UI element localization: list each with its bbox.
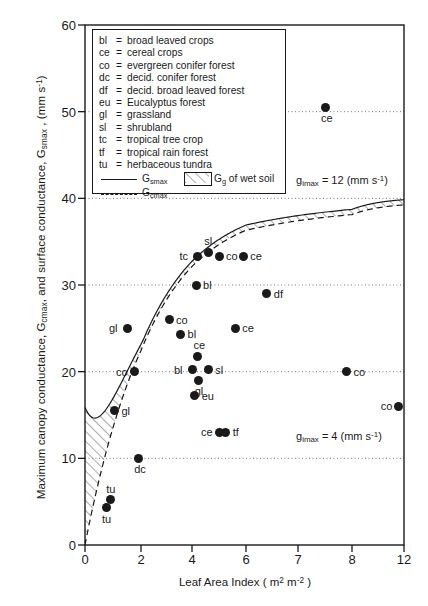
data-point bbox=[102, 503, 111, 512]
data-point bbox=[134, 454, 143, 463]
legend-entry-description: Eucalyptus forest bbox=[127, 97, 205, 109]
legend-entry-equals: = bbox=[116, 134, 127, 146]
legend-entry-equals: = bbox=[116, 47, 127, 59]
legend-entry: bl=broad leaved crops bbox=[99, 35, 285, 47]
legend-entry-equals: = bbox=[116, 147, 127, 159]
legend-entry-description: evergreen conifer forest bbox=[127, 60, 235, 72]
x-tick-label: 4 bbox=[177, 553, 207, 566]
legend-entry-equals: = bbox=[116, 122, 127, 134]
x-tick-label: 6 bbox=[231, 553, 261, 566]
annotation-gimax-4: gimax = 4 (mm s-1) bbox=[296, 430, 382, 444]
x-tick-label: 7 bbox=[283, 553, 313, 566]
legend-entry: eu=Eucalyptus forest bbox=[99, 97, 285, 109]
annotation-gimax-12: gimax = 12 (mm s-1) bbox=[296, 174, 388, 188]
legend-entry-description: shrubland bbox=[127, 122, 172, 134]
legend-entry-code: bl bbox=[99, 35, 116, 47]
legend-entry-code: ce bbox=[99, 47, 116, 59]
legend-curve-gcmax: Gcmax bbox=[99, 187, 285, 201]
legend-entry-code: df bbox=[99, 85, 116, 97]
dashed-line-icon bbox=[101, 194, 137, 195]
data-point-label: tu bbox=[106, 484, 115, 495]
data-point-label: ce bbox=[242, 323, 254, 334]
legend-entry: df=decid. broad leaved forest bbox=[99, 85, 285, 97]
legend-entry: tu=herbaceous tundra bbox=[99, 159, 285, 171]
legend-entry-code: dc bbox=[99, 72, 116, 84]
legend-entry: tf=tropical rain forest bbox=[99, 147, 285, 159]
legend-hatch-label: Gg of wet soil bbox=[214, 173, 274, 187]
data-point-label: tf bbox=[233, 427, 239, 438]
legend-entry-description: broad leaved crops bbox=[127, 35, 214, 47]
data-point-label: tu bbox=[102, 514, 111, 525]
y-tick-label: 0 bbox=[50, 539, 76, 552]
data-point bbox=[193, 352, 202, 361]
legend-entry: dc=decid. conifer forest bbox=[99, 72, 285, 84]
legend-entry: ce=cereal crops bbox=[99, 47, 285, 59]
data-point-label: eu bbox=[202, 391, 214, 402]
data-point bbox=[176, 330, 185, 339]
data-point bbox=[204, 248, 213, 257]
legend-entry-equals: = bbox=[116, 97, 127, 109]
legend-entry-description: decid. broad leaved forest bbox=[127, 85, 244, 97]
data-point-label: co bbox=[176, 315, 188, 326]
data-point-label: tc bbox=[179, 251, 188, 262]
legend-entry-description: tropical rain forest bbox=[127, 147, 208, 159]
legend-entry: gl=grassland bbox=[99, 109, 285, 121]
x-axis-label: Leaf Area Index ( m2 m-2 ) bbox=[85, 576, 405, 588]
y-tick-label: 50 bbox=[50, 106, 76, 119]
data-point-label: ce bbox=[193, 340, 205, 351]
legend-entry-equals: = bbox=[116, 159, 127, 171]
hatch-swatch-icon bbox=[184, 172, 212, 186]
legend-entry-equals: = bbox=[116, 85, 127, 97]
y-tick-label: 40 bbox=[50, 192, 76, 205]
data-point-label: co bbox=[354, 367, 366, 378]
data-point-label: ce bbox=[321, 113, 333, 124]
legend-gcmax-label: Gcmax bbox=[142, 187, 182, 201]
legend-gsmax-label: Gsmax bbox=[142, 173, 182, 187]
data-point-label: co bbox=[381, 401, 393, 412]
legend-entry-description: herbaceous tundra bbox=[127, 159, 212, 171]
data-point bbox=[231, 324, 240, 333]
data-point bbox=[110, 406, 119, 415]
legend-entry-description: cereal crops bbox=[127, 47, 183, 59]
data-point-label: gl bbox=[109, 323, 118, 334]
legend-entry-list: bl=broad leaved cropsce=cereal cropsco=e… bbox=[99, 35, 285, 171]
legend-entry-equals: = bbox=[116, 72, 127, 84]
curve-gsmax bbox=[85, 200, 404, 418]
y-axis-label: Maximum canopy conductance, Gcmax, and s… bbox=[35, 79, 49, 499]
data-point-label: sl bbox=[215, 365, 223, 376]
solid-line-icon bbox=[101, 179, 137, 180]
figure-root: Maximum canopy conductance, Gcmax, and s… bbox=[0, 0, 428, 606]
legend-entry: sl=shrubland bbox=[99, 122, 285, 134]
y-tick-label: 30 bbox=[50, 279, 76, 292]
legend-entry-code: sl bbox=[99, 122, 116, 134]
legend-entry-description: decid. conifer forest bbox=[127, 72, 216, 84]
data-point-label: co bbox=[226, 251, 238, 262]
y-tick-label: 20 bbox=[50, 366, 76, 379]
legend-entry-code: co bbox=[99, 60, 116, 72]
data-point-label: sl bbox=[204, 236, 212, 247]
data-point bbox=[215, 252, 224, 261]
x-tick-label: 2 bbox=[126, 553, 156, 566]
legend-entry-equals: = bbox=[116, 109, 127, 121]
y-tick-label: 10 bbox=[50, 452, 76, 465]
data-point-label: gl bbox=[121, 406, 130, 417]
data-point bbox=[123, 324, 132, 333]
x-tick-label: 8 bbox=[337, 553, 367, 566]
data-point-label: bl bbox=[174, 365, 183, 376]
data-point-label: dc bbox=[134, 464, 146, 475]
legend-entry-code: tc bbox=[99, 134, 116, 146]
data-point bbox=[130, 367, 139, 376]
legend-entry-code: eu bbox=[99, 97, 116, 109]
legend-entry-code: gl bbox=[99, 109, 116, 121]
legend-entry-equals: = bbox=[116, 35, 127, 47]
data-point bbox=[188, 365, 197, 374]
legend-entry-code: tf bbox=[99, 147, 116, 159]
data-point bbox=[321, 103, 330, 112]
data-point bbox=[193, 252, 202, 261]
legend-entry-description: tropical tree crop bbox=[127, 134, 203, 146]
legend-entry-equals: = bbox=[116, 60, 127, 72]
data-point-label: co bbox=[116, 367, 128, 378]
legend-entry-description: grassland bbox=[127, 109, 171, 121]
data-point-label: ce bbox=[201, 427, 213, 438]
legend-entry: tc=tropical tree crop bbox=[99, 134, 285, 146]
